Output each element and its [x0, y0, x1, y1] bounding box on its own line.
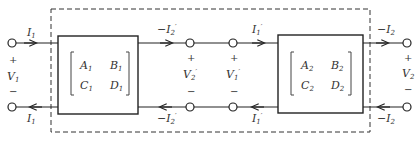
label-v2p: V2′	[183, 68, 197, 82]
label-v1: V1	[7, 70, 19, 84]
label-i1p-top: I1′	[251, 23, 263, 37]
matrix-1-c: C1	[80, 79, 93, 93]
matrix-1-d: D1	[109, 79, 123, 93]
matrix-2-d: D2	[330, 79, 345, 93]
label-neg-i2-top: −I2	[377, 23, 396, 37]
label-v2: V2	[402, 67, 415, 81]
label-v1p: V1′	[226, 68, 240, 82]
label-v1-minus: −	[9, 86, 17, 97]
terminal-mid-right-plus	[229, 39, 237, 47]
matrix-2-a: A2	[300, 59, 314, 73]
label-v1p-plus: +	[230, 52, 238, 63]
label-i1-top: I1	[26, 26, 36, 40]
label-i1-bottom: I1	[26, 112, 36, 126]
circuit-svg: A1 B1 C1 D1 A2 B2 C2 D2 I1 I1 + V1 − −I2…	[0, 0, 417, 142]
matrix-1-a: A1	[79, 59, 92, 73]
terminal-port2-minus	[403, 103, 411, 111]
matrix-2-left-bracket	[291, 52, 294, 95]
matrix-2-right-bracket	[348, 52, 351, 95]
label-v2-plus: +	[404, 52, 412, 63]
label-v2-minus: −	[404, 84, 412, 95]
terminal-mid-left-minus	[186, 103, 194, 111]
terminal-port1-plus	[8, 39, 16, 47]
matrix-1-b: B1	[109, 59, 123, 73]
label-v2p-plus: +	[187, 52, 195, 63]
matrix-1-left-bracket	[71, 52, 74, 95]
matrix-2-c: C2	[301, 79, 314, 93]
matrix-1-right-bracket	[126, 52, 129, 95]
terminal-mid-right-minus	[229, 103, 237, 111]
label-neg-i2p-bottom: −I2′	[157, 112, 177, 126]
label-neg-i2-bottom: −I2	[377, 112, 396, 126]
network-1-block	[58, 36, 138, 114]
matrix-2-b: B2	[330, 59, 344, 73]
label-v1p-minus: −	[230, 86, 238, 97]
label-neg-i2p-top: −I2′	[157, 23, 177, 37]
label-i1p-bottom: I1′	[251, 112, 263, 126]
label-v2p-minus: −	[187, 86, 195, 97]
label-v1-plus: +	[9, 54, 17, 65]
terminal-port2-plus	[403, 39, 411, 47]
terminal-mid-left-plus	[186, 39, 194, 47]
terminal-port1-minus	[8, 103, 16, 111]
cascaded-two-port-diagram: A1 B1 C1 D1 A2 B2 C2 D2 I1 I1 + V1 − −I2…	[0, 0, 417, 142]
